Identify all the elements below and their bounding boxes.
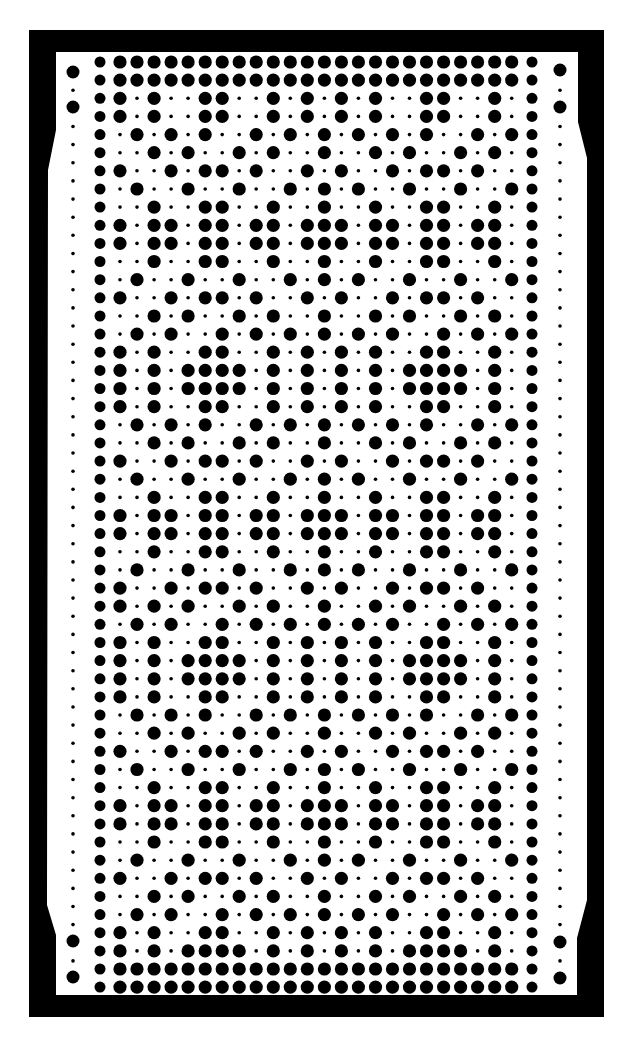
punched-hole (454, 727, 467, 740)
unpunched-mark (169, 369, 173, 373)
edge-hole (527, 764, 538, 775)
unpunched-mark (459, 641, 463, 645)
unpunched-mark (272, 623, 276, 627)
unpunched-mark (152, 423, 156, 427)
sprocket-hole (554, 972, 567, 985)
punched-hole (148, 835, 161, 848)
punched-hole (165, 962, 178, 975)
margin-mark (71, 542, 75, 546)
unpunched-mark (323, 641, 327, 645)
unpunched-mark (459, 913, 463, 917)
unpunched-mark (476, 314, 480, 318)
unpunched-mark (289, 205, 293, 209)
punched-hole (471, 582, 484, 595)
unpunched-mark (476, 786, 480, 790)
unpunched-mark (323, 677, 327, 681)
punched-hole (369, 92, 382, 105)
unpunched-mark (135, 496, 139, 500)
punched-hole (130, 854, 143, 867)
unpunched-mark (237, 514, 241, 518)
unpunched-mark (442, 858, 446, 862)
punched-hole (165, 74, 178, 87)
unpunched-mark (118, 332, 122, 336)
unpunched-mark (510, 314, 514, 318)
unpunched-mark (289, 532, 293, 536)
punched-hole (335, 527, 348, 540)
punched-hole (267, 255, 280, 268)
punched-hole (130, 55, 143, 68)
unpunched-mark (152, 459, 156, 463)
punched-hole (369, 981, 382, 994)
unpunched-mark (254, 205, 258, 209)
margin-mark (71, 905, 75, 909)
punched-hole (403, 146, 416, 159)
margin-mark (71, 397, 75, 401)
punched-hole (250, 418, 263, 431)
unpunched-mark (254, 278, 258, 282)
unpunched-mark (391, 477, 395, 481)
margin-mark (558, 524, 562, 528)
margin-mark (558, 361, 562, 365)
unpunched-mark (135, 296, 139, 300)
punched-hole (454, 854, 467, 867)
unpunched-mark (425, 568, 429, 572)
punched-hole (113, 346, 126, 359)
unpunched-mark (169, 278, 173, 282)
unpunched-mark (289, 731, 293, 735)
edge-hole (95, 909, 106, 920)
margin-mark (558, 252, 562, 256)
unpunched-mark (135, 115, 139, 119)
unpunched-mark (237, 931, 241, 935)
unpunched-mark (493, 133, 497, 137)
punched-hole (454, 309, 467, 322)
edge-hole (527, 728, 538, 739)
edge-hole (95, 437, 106, 448)
punched-hole (113, 926, 126, 939)
margin-mark (71, 270, 75, 274)
unpunched-mark (408, 931, 412, 935)
unpunched-mark (510, 242, 514, 246)
punched-hole (420, 346, 433, 359)
edge-hole (95, 510, 106, 521)
edge-hole (527, 474, 538, 485)
punched-hole (335, 654, 348, 667)
punched-hole (318, 763, 331, 776)
edge-hole (95, 474, 106, 485)
unpunched-mark (459, 840, 463, 844)
punched-hole (403, 309, 416, 322)
edge-hole (527, 855, 538, 866)
punched-hole (471, 981, 484, 994)
punched-hole (403, 473, 416, 486)
unpunched-mark (135, 877, 139, 881)
unpunched-mark (459, 97, 463, 101)
punched-hole (437, 817, 450, 830)
punched-hole (318, 255, 331, 268)
punched-hole (267, 654, 280, 667)
unpunched-mark (340, 550, 344, 554)
punched-hole (113, 600, 126, 613)
unpunched-mark (306, 568, 310, 572)
unpunched-mark (254, 314, 258, 318)
punched-hole (454, 600, 467, 613)
unpunched-mark (510, 895, 514, 899)
punched-hole (369, 600, 382, 613)
punched-hole (505, 618, 518, 631)
punched-hole (130, 418, 143, 431)
unpunched-mark (340, 133, 344, 137)
unpunched-mark (408, 169, 412, 173)
unpunched-mark (237, 822, 241, 826)
unpunched-mark (476, 496, 480, 500)
punched-hole (301, 455, 314, 468)
unpunched-mark (118, 786, 122, 790)
punched-hole (267, 600, 280, 613)
unpunched-mark (493, 568, 497, 572)
unpunched-mark (323, 586, 327, 590)
edge-hole (95, 528, 106, 539)
punched-hole (182, 944, 195, 957)
unpunched-mark (510, 224, 514, 228)
punched-hole (199, 92, 212, 105)
unpunched-mark (118, 205, 122, 209)
edge-hole (95, 292, 106, 303)
unpunched-mark (459, 586, 463, 590)
unpunched-mark (220, 604, 224, 608)
